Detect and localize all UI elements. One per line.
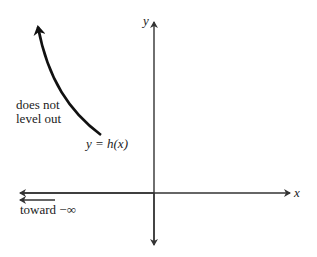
y-axis-label: y — [143, 14, 149, 28]
curve-label: y = h(x) — [86, 137, 128, 151]
annotation-does-not-level-out: does not level out — [16, 98, 61, 126]
toward-neg-infinity-label: toward −∞ — [20, 203, 76, 217]
annotation-line-2: level out — [16, 112, 61, 126]
graph-canvas — [0, 0, 317, 257]
x-axis-label: x — [294, 186, 300, 200]
annotation-line-1: does not — [16, 98, 61, 112]
